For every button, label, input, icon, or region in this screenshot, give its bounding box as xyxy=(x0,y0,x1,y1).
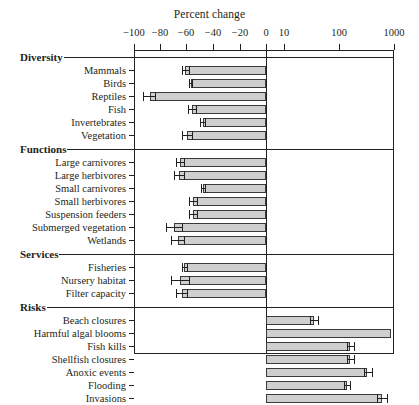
category-label: Large herbivores xyxy=(0,169,126,182)
x-tick-label: 10 xyxy=(279,27,290,38)
bar xyxy=(191,79,266,88)
error-bar-line xyxy=(171,240,184,241)
bar xyxy=(266,368,367,377)
y-tick-mark xyxy=(129,267,134,268)
x-tick-label: 0 xyxy=(263,27,268,38)
bar xyxy=(266,381,347,390)
bar xyxy=(180,276,266,285)
x-tick-label: 1000 xyxy=(384,27,405,38)
category-label: Flooding xyxy=(0,379,126,392)
bar xyxy=(182,289,266,298)
error-bar-cap xyxy=(192,131,193,140)
chart-row: Harmful algal blooms xyxy=(0,327,419,340)
error-bar-line xyxy=(347,346,354,347)
error-bar-cap xyxy=(176,158,177,167)
category-label: Large carnivores xyxy=(0,156,126,169)
bar xyxy=(180,158,266,167)
chart-row: Fisheries xyxy=(0,261,419,274)
category-label: Anoxic events xyxy=(0,366,126,379)
bar xyxy=(193,197,266,206)
chart-row: Filter capacity xyxy=(0,287,419,300)
error-bar-line xyxy=(176,162,184,163)
error-bar-cap xyxy=(189,276,190,285)
error-bar-cap xyxy=(318,316,319,325)
error-bar-cap xyxy=(166,223,167,232)
section-rule xyxy=(59,254,394,255)
bar xyxy=(203,184,266,193)
y-tick-mark xyxy=(129,201,134,202)
x-tick-label: −40 xyxy=(205,27,221,38)
error-bar-line xyxy=(347,359,354,360)
y-tick-mark xyxy=(129,109,134,110)
bar xyxy=(266,329,391,338)
chart-row: Invasions xyxy=(0,392,419,405)
category-label: Reptiles xyxy=(0,90,126,103)
error-bar-cap xyxy=(347,342,348,351)
error-bar-line xyxy=(310,320,318,321)
bar xyxy=(193,210,266,219)
category-label: Small carnivores xyxy=(0,182,126,195)
chart-row: Flooding xyxy=(0,379,419,392)
chart-row: Fish kills xyxy=(0,340,419,353)
y-tick-mark xyxy=(129,346,134,347)
chart-row: Mammals xyxy=(0,64,419,77)
chart-row: Beach closures xyxy=(0,314,419,327)
section-rule xyxy=(47,307,394,308)
y-tick-mark xyxy=(129,280,134,281)
error-bar-cap xyxy=(184,158,185,167)
chart-row: Vegetation xyxy=(0,129,419,142)
error-bar-cap xyxy=(354,342,355,351)
error-bar-cap xyxy=(196,105,197,114)
x-tick-label: −20 xyxy=(232,27,248,38)
error-bar-cap xyxy=(188,105,189,114)
x-axis-title: Percent change xyxy=(0,8,419,20)
y-tick-mark xyxy=(129,333,134,334)
error-bar-line xyxy=(182,135,193,136)
error-bar-cap xyxy=(205,184,206,193)
error-bar-cap xyxy=(171,236,172,245)
category-label: Submerged vegetation xyxy=(0,221,126,234)
bar xyxy=(179,171,266,180)
bar xyxy=(203,118,266,127)
x-tick-label: −60 xyxy=(178,27,194,38)
chart-row: Fish xyxy=(0,103,419,116)
error-bar-line xyxy=(176,293,187,294)
y-tick-mark xyxy=(129,175,134,176)
y-tick-mark xyxy=(129,320,134,321)
chart-row: Large herbivores xyxy=(0,169,419,182)
category-label: Beach closures xyxy=(0,314,126,327)
bar xyxy=(266,316,314,325)
bar xyxy=(174,223,266,232)
error-bar-line xyxy=(171,280,189,281)
x-tick-label: 100 xyxy=(331,27,347,38)
category-label: Birds xyxy=(0,77,126,90)
y-tick-mark xyxy=(129,359,134,360)
error-bar-cap xyxy=(377,394,378,403)
error-bar-cap xyxy=(201,184,202,193)
bar xyxy=(185,66,266,75)
error-bar-cap xyxy=(182,263,183,272)
chart-row: Small carnivores xyxy=(0,182,419,195)
error-bar-cap xyxy=(189,210,190,219)
bar xyxy=(192,105,266,114)
category-label: Harmful algal blooms xyxy=(0,327,126,340)
category-label: Mammals xyxy=(0,64,126,77)
chart-row: Suspension feeders xyxy=(0,208,419,221)
error-bar-cap xyxy=(176,289,177,298)
bar xyxy=(184,263,266,272)
y-tick-mark xyxy=(129,227,134,228)
section-header: Diversity xyxy=(0,50,419,64)
category-label: Suspension feeders xyxy=(0,208,126,221)
y-tick-mark xyxy=(129,96,134,97)
error-bar-line xyxy=(189,201,197,202)
error-bar-cap xyxy=(200,118,201,127)
error-bar-cap xyxy=(344,381,345,390)
error-bar-cap xyxy=(155,92,156,101)
error-bar-cap xyxy=(187,289,188,298)
y-tick-mark xyxy=(129,385,134,386)
bar xyxy=(266,355,350,364)
chart-row: Invertebrates xyxy=(0,116,419,129)
chart-row: Nursery habitat xyxy=(0,274,419,287)
error-bar-line xyxy=(188,109,196,110)
